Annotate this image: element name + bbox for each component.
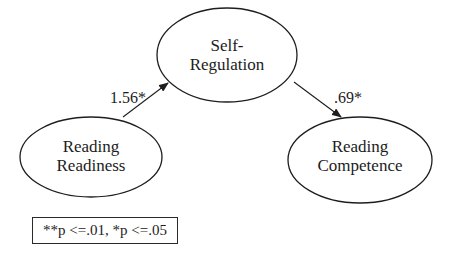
node-reading-competence-shape: [288, 117, 432, 203]
path-diagram: Self- Regulation Reading Readiness Readi…: [0, 0, 454, 263]
node-self-regulation-shape: [157, 8, 297, 102]
edge-label-self-regulation-to-competence: .69*: [334, 89, 362, 107]
significance-legend-text: **p <=.01, *p <=.05: [43, 222, 167, 238]
node-reading-readiness-shape: [20, 117, 162, 197]
significance-legend: **p <=.01, *p <=.05: [32, 217, 178, 244]
edge-label-readiness-to-self-regulation: 1.56*: [110, 89, 146, 107]
